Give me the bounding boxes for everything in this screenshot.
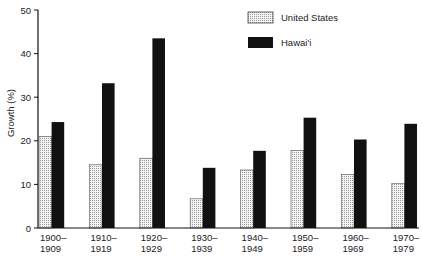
- bar-group: [190, 168, 215, 228]
- bar-group: [392, 124, 417, 228]
- x-tick-label: 1970–1979: [393, 232, 420, 254]
- x-tick-label: 1910–1919: [90, 232, 117, 254]
- bar-group: [291, 118, 316, 228]
- bar-hawaii: [203, 168, 216, 228]
- y-tick-label: 20: [20, 135, 31, 146]
- bar-united-states: [341, 174, 354, 228]
- bar-hawaii: [253, 151, 266, 228]
- y-tick-label: 30: [20, 92, 31, 103]
- y-tick-label: 40: [20, 48, 31, 59]
- legend-swatch-united-states: [248, 12, 273, 23]
- x-tick-label: 1940–1949: [242, 232, 269, 254]
- x-tick-label: 1930–1939: [191, 232, 218, 254]
- bar-united-states: [89, 165, 102, 228]
- legend-label-united-states: United States: [281, 12, 338, 23]
- bar-united-states: [392, 184, 405, 228]
- bar-hawaii: [52, 122, 65, 228]
- bar-united-states: [291, 150, 304, 228]
- bar-group: [341, 139, 366, 228]
- legend-item-united-states: United States: [248, 12, 338, 23]
- x-tick-label: 1900–1909: [40, 232, 67, 254]
- bar-united-states: [39, 136, 52, 228]
- bar-united-states: [190, 199, 203, 228]
- x-tick-label: 1960–1969: [342, 232, 369, 254]
- y-axis-title: Growth (%): [5, 89, 16, 137]
- legend-label-hawaii: Hawai'i: [281, 37, 311, 48]
- x-axis: 1900–19091910–19191920–19291930–19391940…: [38, 228, 420, 254]
- y-tick-label: 10: [20, 179, 31, 190]
- legend-item-hawaii: Hawai'i: [248, 37, 311, 48]
- y-tick-label: 0: [26, 223, 31, 234]
- x-tick-label: 1920–1929: [141, 232, 168, 254]
- legend-swatch-hawaii: [248, 37, 273, 48]
- bar-hawaii: [404, 124, 417, 228]
- bar-group: [241, 151, 266, 228]
- bar-hawaii: [304, 118, 317, 228]
- y-axis: 01020304050: [20, 5, 38, 234]
- bar-united-states: [241, 170, 254, 228]
- bar-chart: 01020304050 1900–19091910–19191920–19291…: [0, 0, 422, 258]
- bar-group: [89, 83, 114, 228]
- legend: United States Hawai'i: [248, 12, 338, 48]
- bar-group: [39, 122, 64, 228]
- bar-hawaii: [152, 38, 165, 228]
- x-tick-label: 1950–1959: [292, 232, 319, 254]
- bars: [39, 38, 417, 228]
- bar-united-states: [140, 158, 153, 228]
- bar-hawaii: [354, 139, 367, 228]
- y-tick-label: 50: [20, 5, 31, 16]
- bar-group: [140, 38, 165, 228]
- bar-hawaii: [102, 83, 115, 228]
